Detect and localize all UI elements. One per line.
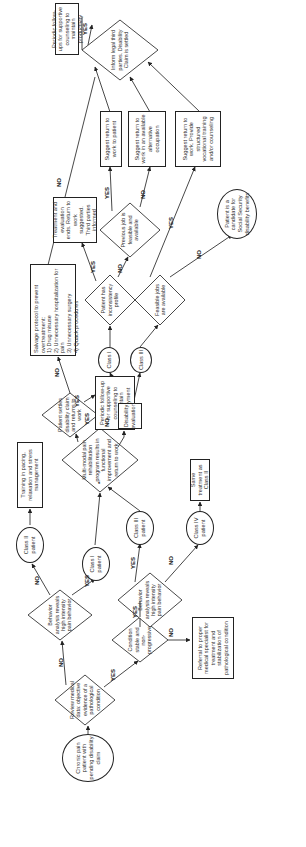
- behavior2-text: Behavior analysis reveals high intensity…: [137, 579, 163, 621]
- salvage-item: 2) Unnecessary hospitalization for pain: [53, 267, 66, 353]
- suggest-patient-text: Suggest return to work to patient: [104, 114, 117, 164]
- class3-node: Class III patient: [126, 511, 154, 545]
- behavior1-text: Behavior analysis reveals high intensity…: [47, 595, 73, 635]
- multimodal-text: Multi-modal pain rehabilitation program …: [81, 435, 119, 485]
- referral-text: Referral to proper medical specialist fo…: [197, 620, 230, 676]
- inconsistency-diamond: Patient has inconsistency profile: [97, 282, 123, 318]
- label-yes: YES: [168, 217, 174, 229]
- feasible-diamond: Feasible jobs are available: [147, 282, 173, 318]
- class3-small-text: Class III: [138, 350, 145, 370]
- label-no: NO: [196, 250, 202, 259]
- label-no: NO: [54, 368, 60, 377]
- suggest-voc-box: Suggest return to work. Provide structur…: [175, 111, 221, 167]
- suggest-voc-text: Suggest return to work. Provide structur…: [182, 114, 215, 164]
- condition-diamond: Condition stable and non-progressive: [127, 623, 153, 657]
- same-treatment-box: Same treatment as Class II: [190, 459, 210, 501]
- label-no: NO: [140, 190, 146, 199]
- class3-small-node: Class III: [130, 347, 152, 373]
- referral-box: Referral to proper medical specialist fo…: [192, 617, 234, 679]
- review-diamond: Review medical data: objective evidence …: [68, 680, 102, 720]
- same-treatment-text: Same treatment as Class II: [190, 462, 210, 498]
- label-no: NO: [34, 576, 40, 585]
- label-yes: YES: [104, 187, 110, 199]
- label-yes: YES: [90, 261, 96, 273]
- class2-text: Class II patient: [23, 528, 36, 562]
- salvage-item: 1) Drug misuse: [46, 315, 53, 353]
- label-no: NO: [58, 658, 64, 667]
- suggest-patient-box: Suggest return to work to patient: [100, 111, 122, 167]
- review-text: Review medical data: objective evidence …: [69, 680, 101, 720]
- class1-small-text: Class I: [106, 351, 113, 368]
- salvage-box: Salvage protocol to prevent overtreatmen…: [30, 264, 76, 356]
- feasible-text: Feasible jobs are available: [154, 282, 167, 318]
- inform-diamond: Inform legal third parties. Disability C…: [100, 28, 140, 72]
- suggest-alt-text: Suggest return to work in an available a…: [134, 114, 160, 164]
- training-text: Training in pacing, relaxation and stres…: [20, 445, 40, 505]
- previous-job-text: Previous job is feasible and available: [120, 211, 139, 249]
- class4-node: Class IV patient: [186, 511, 214, 545]
- flowchart-canvas: Chronic pain patient with pending disabi…: [0, 0, 306, 847]
- class1-small-node: Class I: [98, 347, 120, 373]
- multimodal-diamond: Multi-modal pain rehabilitation program …: [76, 435, 124, 485]
- disability-eval-text: Disability evaluation: [123, 403, 136, 429]
- training-box: Training in pacing, relaxation and stres…: [17, 442, 43, 508]
- periodic-end-box: Periodic follow-ups for supportive couns…: [55, 3, 79, 55]
- label-yes: YES: [130, 557, 136, 569]
- disability-eval-box: Disability evaluation: [118, 403, 142, 429]
- ss-candidate-text: Patient is a candidate for Social Securi…: [224, 190, 250, 238]
- start-node: Chronic pain patient with pending disabi…: [62, 734, 114, 782]
- label-no: NO: [168, 556, 174, 565]
- ss-candidate-node: Patient is a candidate for Social Securi…: [217, 189, 257, 239]
- label-yes: YES: [110, 669, 116, 681]
- salvage-title: Salvage protocol to prevent overtreatmen…: [33, 267, 46, 353]
- treatment-ends-text: Treatment and evaluation ends. Return to…: [52, 200, 98, 240]
- label-yes: YES: [74, 395, 80, 407]
- star-marker: *: [97, 482, 103, 484]
- class3-text: Class III patient: [133, 512, 146, 544]
- behavior1-diamond: Behavior analysis reveals high intensity…: [42, 595, 78, 635]
- inform-text: Inform legal third parties. Disability C…: [110, 28, 129, 72]
- start-text: Chronic pain patient with pending disabi…: [75, 735, 101, 781]
- class1-text: Class I patient: [89, 548, 102, 580]
- settles-diamond: Patient settles disability claim and ret…: [55, 397, 85, 433]
- class4-text: Class IV patient: [193, 512, 206, 544]
- salvage-item: 3) Unnecessary surgery: [66, 294, 73, 353]
- label-no: NO: [117, 264, 123, 273]
- class2-node: Class II patient: [16, 527, 44, 563]
- treatment-ends-box: Treatment and evaluation ends. Return to…: [53, 197, 97, 243]
- salvage-item: 4) Quack procedures: [73, 301, 80, 353]
- label-no: NO: [56, 178, 62, 187]
- label-no: NO: [104, 418, 110, 427]
- condition-text: Condition stable and non-progressive: [127, 623, 153, 657]
- previous-job-diamond: Previous job is feasible and available: [115, 211, 145, 249]
- label-yes: YES: [84, 575, 90, 587]
- label-yes: YES: [82, 23, 88, 35]
- label-yes: YES: [132, 606, 138, 618]
- label-no: NO: [168, 628, 174, 637]
- inconsistency-text: Patient has inconsistency profile: [100, 282, 119, 318]
- periodic-end-text: Periodic follow-ups for supportive couns…: [51, 6, 84, 52]
- suggest-alt-box: Suggest return to work in an available a…: [128, 111, 166, 167]
- label-yes: YES: [84, 413, 90, 425]
